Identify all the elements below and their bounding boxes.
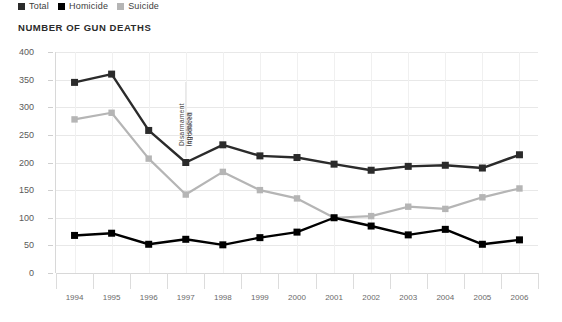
gridline-vertical: [519, 52, 520, 273]
x-axis-tick-mark: [353, 273, 354, 289]
y-axis-tick-mark: [48, 218, 53, 219]
gridline-vertical: [223, 52, 224, 273]
x-axis-tick-mark: [278, 273, 279, 289]
y-axis-tick-mark: [48, 163, 53, 164]
y-axis-tick-label: 150: [19, 186, 34, 195]
y-axis-tick-label: 400: [19, 48, 34, 57]
x-axis-tick-label: 1994: [66, 293, 84, 302]
plot-area: [56, 52, 538, 273]
legend-swatch-homicide: [58, 3, 65, 10]
gridline-vertical: [334, 52, 335, 273]
gridline-vertical: [149, 52, 150, 273]
gridline-vertical: [445, 52, 446, 273]
gridline-vertical: [112, 52, 113, 273]
x-axis-tick-label: 2004: [436, 293, 454, 302]
legend-item-homicide[interactable]: Homicide: [58, 2, 108, 11]
y-axis-tick-label: 300: [19, 103, 34, 112]
legend-item-suicide[interactable]: Suicide: [117, 2, 159, 11]
x-axis-tick-label: 2002: [362, 293, 380, 302]
x-axis-tick-mark: [538, 273, 539, 289]
gun-deaths-line-chart: Total Homicide Suicide NUMBER OF GUN DEA…: [0, 0, 562, 322]
legend-label-total: Total: [29, 2, 49, 11]
annotation-line-2: introduced: [186, 112, 193, 146]
x-axis-tick-mark: [204, 273, 205, 289]
y-axis-tick-label: 50: [24, 241, 34, 250]
x-axis-tick-label: 2005: [473, 293, 491, 302]
x-axis-tick-label: 2000: [288, 293, 306, 302]
x-axis-tick-label: 1997: [177, 293, 195, 302]
y-axis-tick-label: 250: [19, 131, 34, 140]
y-axis-tick-label: 350: [19, 76, 34, 85]
gridline-vertical: [260, 52, 261, 273]
legend-item-total[interactable]: Total: [18, 2, 49, 11]
gridline-vertical: [371, 52, 372, 273]
y-axis-labels: 050100150200250300350400: [0, 52, 48, 273]
legend-label-suicide: Suicide: [128, 2, 159, 11]
y-axis-tick-mark: [48, 52, 53, 53]
x-axis-tick-mark: [464, 273, 465, 289]
x-axis-tick-label: 1998: [214, 293, 232, 302]
y-axis-tick-label: 200: [19, 159, 34, 168]
gridline-vertical: [408, 52, 409, 273]
y-axis-tick-label: 100: [19, 214, 34, 223]
gridline-vertical: [482, 52, 483, 273]
y-axis-tick-mark: [48, 135, 53, 136]
x-axis-tick-label: 2003: [399, 293, 417, 302]
y-axis-tick-mark: [48, 190, 53, 191]
y-axis-tick-mark: [48, 107, 53, 108]
x-axis-tick-mark: [241, 273, 242, 289]
x-axis-tick-mark: [501, 273, 502, 289]
chart-legend: Total Homicide Suicide: [18, 2, 159, 11]
legend-label-homicide: Homicide: [69, 2, 108, 11]
x-axis-tick-mark: [56, 273, 57, 289]
x-axis-tick-mark: [316, 273, 317, 289]
y-axis-tick-mark: [48, 80, 53, 81]
x-axis-tick-mark: [427, 273, 428, 289]
x-axis-tick-mark: [130, 273, 131, 289]
x-axis-tick-mark: [390, 273, 391, 289]
legend-swatch-total: [18, 3, 25, 10]
x-axis-tick-label: 1995: [103, 293, 121, 302]
chart-title: NUMBER OF GUN DEATHS: [18, 22, 151, 33]
x-axis-tick-label: 1996: [140, 293, 158, 302]
legend-swatch-suicide: [117, 3, 124, 10]
x-axis-tick-mark: [167, 273, 168, 289]
x-axis-tick-mark: [93, 273, 94, 289]
y-axis-tick-mark: [48, 245, 53, 246]
x-axis-labels: 1994199519961997199819992000200120022003…: [0, 273, 562, 309]
gridline-vertical: [186, 52, 187, 273]
x-axis-tick-label: 2006: [511, 293, 529, 302]
x-axis-tick-label: 2001: [325, 293, 343, 302]
gridline-vertical: [75, 52, 76, 273]
x-axis-tick-label: 1999: [251, 293, 269, 302]
gridline-vertical: [297, 52, 298, 273]
